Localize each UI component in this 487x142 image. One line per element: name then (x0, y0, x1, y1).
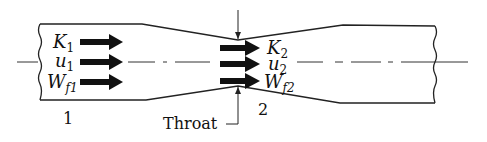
break-line-left (39, 24, 42, 100)
section2-number: 2 (258, 100, 268, 119)
section2-arrows (220, 40, 260, 89)
arrow-wf1 (80, 74, 123, 90)
throat-label: Throat (163, 114, 218, 133)
label-wf2: Wf2 (264, 71, 295, 95)
break-line-right (434, 26, 437, 103)
arrow-u2 (220, 56, 260, 72)
label-wf1: Wf1 (47, 71, 78, 95)
venturi-diagram: K1 u1 Wf1 1 K2 u2 Wf2 2 Throat (0, 0, 487, 142)
arrow-k1 (80, 34, 123, 50)
arrow-k2 (220, 40, 260, 56)
section1-number: 1 (63, 109, 73, 128)
throat-leader (226, 87, 238, 124)
section1-arrows (80, 34, 123, 90)
arrow-u1 (80, 54, 123, 70)
